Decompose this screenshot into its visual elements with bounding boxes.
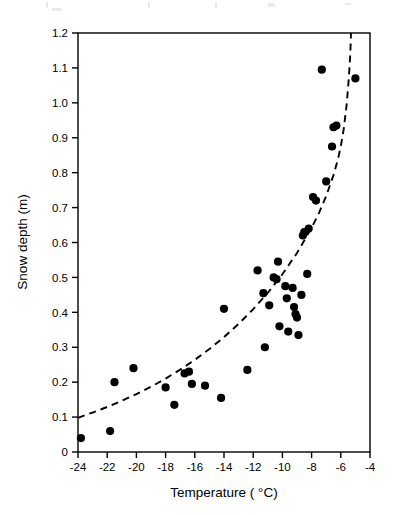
data-point: [283, 294, 291, 302]
data-point: [289, 284, 297, 292]
data-point: [220, 305, 228, 313]
y-tick-label: 1.0: [52, 97, 68, 109]
data-point: [312, 197, 320, 205]
x-axis-tick-labels: -24-22-20-18-16-14-12-10-8-6-4: [70, 461, 376, 473]
data-point: [243, 366, 251, 374]
data-point: [201, 382, 209, 390]
y-tick-label: 0.3: [52, 341, 68, 353]
y-tick-label: 0.4: [52, 307, 69, 319]
x-tick-label: -4: [365, 461, 376, 473]
figure-container: -24-22-20-18-16-14-12-10-8-6-4 00.10.20.…: [0, 0, 395, 515]
x-tick-label: -20: [128, 461, 145, 473]
data-point: [328, 142, 336, 150]
data-point: [281, 282, 289, 290]
x-tick-label: -18: [157, 461, 174, 473]
data-point: [259, 289, 267, 297]
data-point: [293, 313, 301, 321]
data-point: [318, 66, 326, 74]
x-tick-label: -8: [306, 461, 316, 473]
data-point: [162, 383, 170, 391]
data-point: [217, 394, 225, 402]
data-point: [272, 275, 280, 283]
y-tick-label: 0.8: [52, 167, 68, 179]
x-tick-label: -12: [245, 461, 262, 473]
data-point: [261, 343, 269, 351]
data-point: [332, 121, 340, 129]
x-tick-label: -10: [274, 461, 291, 473]
data-point: [275, 322, 283, 330]
scatter-plot: -24-22-20-18-16-14-12-10-8-6-4 00.10.20.…: [0, 0, 395, 515]
x-tick-label: -24: [70, 461, 87, 473]
y-tick-label: 0.6: [52, 237, 68, 249]
plot-frame: [78, 33, 370, 452]
data-point: [305, 224, 313, 232]
data-point: [284, 327, 292, 335]
y-tick-label: 1.1: [52, 62, 68, 74]
x-tick-label: -14: [216, 461, 233, 473]
y-axis-tick-labels: 00.10.20.30.40.50.60.70.80.91.01.11.2: [52, 27, 69, 458]
data-point: [303, 270, 311, 278]
x-axis-label: Temperature ( °C): [170, 485, 277, 500]
data-point: [106, 427, 114, 435]
data-point-group: [77, 66, 360, 443]
y-axis-ticks: [72, 33, 78, 452]
x-tick-label: -22: [99, 461, 116, 473]
data-point: [170, 401, 178, 409]
y-tick-label: 0.7: [52, 202, 68, 214]
y-tick-label: 0.9: [52, 132, 68, 144]
data-point: [290, 303, 298, 311]
data-point: [297, 291, 305, 299]
data-point: [253, 266, 261, 274]
data-point: [274, 258, 282, 266]
y-tick-label: 1.2: [52, 27, 68, 39]
x-axis-ticks: [78, 452, 370, 458]
x-tick-label: -16: [186, 461, 203, 473]
data-point: [294, 331, 302, 339]
data-point: [351, 74, 359, 82]
y-tick-label: 0: [62, 446, 68, 458]
y-tick-label: 0.1: [52, 411, 68, 423]
y-axis-label: Snow depth (m): [15, 194, 30, 289]
axis-frame: [78, 33, 370, 452]
data-point: [188, 380, 196, 388]
data-point: [265, 301, 273, 309]
x-tick-label: -6: [336, 461, 346, 473]
data-point: [129, 364, 137, 372]
y-tick-label: 0.2: [52, 376, 68, 388]
data-point: [110, 378, 118, 386]
data-point: [77, 434, 85, 442]
data-point: [185, 368, 193, 376]
y-tick-label: 0.5: [52, 272, 68, 284]
data-point: [322, 177, 330, 185]
